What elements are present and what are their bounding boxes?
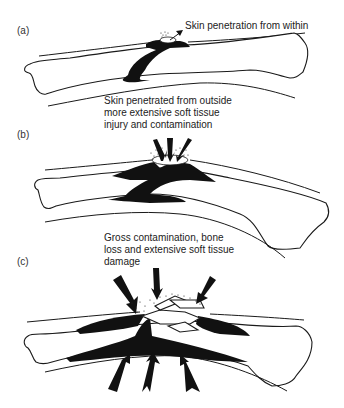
fracture-illustrations (0, 0, 344, 408)
skin-line-bottom (48, 83, 295, 106)
arrow-bottom-center (142, 352, 160, 392)
arrow-top-left (113, 275, 138, 314)
bone-fragment-1 (142, 310, 200, 324)
arrow-top-right (196, 276, 216, 304)
arrow-bottom-right (180, 354, 200, 392)
panel-c-drawing (24, 268, 312, 392)
panel-a-drawing (25, 30, 308, 106)
skin-line-top-right (210, 314, 304, 320)
open-fracture-classification-figure: (a) (b) (c) Skin penetration from within… (0, 0, 344, 408)
panel-b-drawing (35, 138, 329, 258)
arrow-top-center (151, 268, 163, 300)
